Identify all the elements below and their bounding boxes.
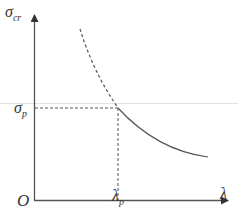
- euler-diagram: σcr σp O λp λ: [0, 0, 238, 211]
- sigma-p-label: σp: [14, 100, 27, 116]
- x-axis-label: λ: [220, 186, 227, 202]
- euler-curve-dashed: [80, 29, 118, 108]
- euler-curve-solid: [118, 108, 208, 157]
- y-axis-label: σcr: [5, 4, 21, 20]
- lambda-p-label: λp: [112, 188, 124, 204]
- origin-label: O: [17, 192, 29, 209]
- diagram-canvas: [0, 0, 238, 211]
